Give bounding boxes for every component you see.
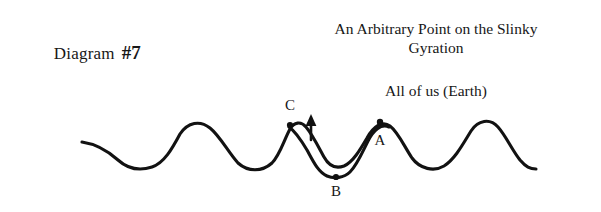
- point-b-marker: [333, 174, 339, 180]
- slinky-wave-figure: C A B: [0, 0, 601, 212]
- point-a-marker: [377, 119, 383, 125]
- point-c-label: C: [285, 97, 295, 113]
- gyration-arrow-head: [306, 114, 317, 126]
- diagram-page: Diagram#7 An Arbitrary Point on the Slin…: [0, 0, 601, 212]
- point-b-label: B: [331, 183, 341, 199]
- slinky-wave-main-path: [82, 121, 536, 169]
- point-c-marker: [287, 122, 293, 128]
- point-a-label: A: [375, 132, 386, 148]
